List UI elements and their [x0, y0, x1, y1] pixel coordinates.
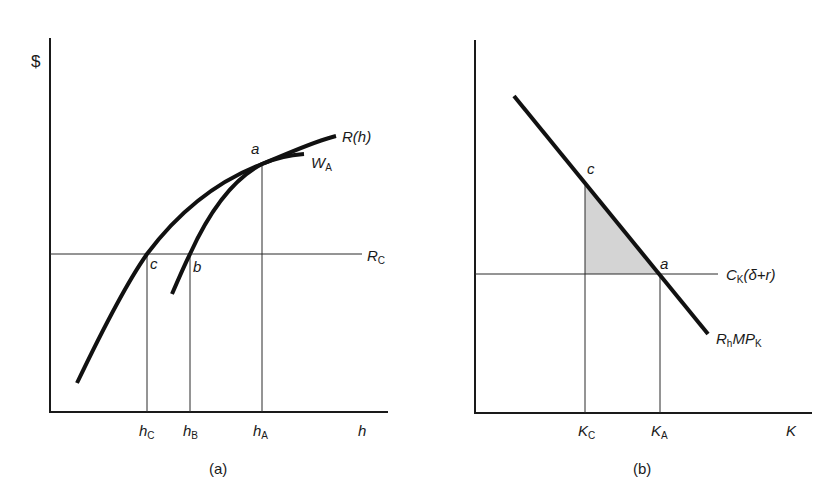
panel-b-caption: (b): [633, 460, 651, 477]
economics-diagram: $ a R(h) WA RC c b hC hB hA h (a): [0, 0, 828, 503]
point-b-label: b: [193, 258, 201, 275]
point-a-label-b: a: [660, 255, 668, 272]
hb-tick-label: hB: [183, 422, 198, 441]
ha-tick-label: hA: [253, 422, 268, 441]
panel-b: c a CK(δ+r) RhMPK KC KA K (b): [474, 40, 812, 477]
hc-tick-label: hC: [139, 422, 155, 441]
ka-tick-label: KA: [651, 422, 668, 441]
k-axis-label: K: [786, 422, 797, 439]
panel-a-caption: (a): [209, 460, 227, 477]
ck-label: CK(δ+r): [726, 266, 776, 285]
point-c-label-b: c: [587, 160, 595, 177]
panel-a: $ a R(h) WA RC c b hC hB hA h (a): [31, 38, 388, 477]
h-axis-label: h: [358, 422, 366, 439]
kc-tick-label: KC: [578, 422, 595, 441]
point-c-label: c: [150, 255, 158, 272]
rh-mpk-label: RhMPK: [716, 330, 762, 349]
wa-label: WA: [311, 154, 332, 173]
dollar-axis-label: $: [31, 52, 41, 71]
r-of-h-curve: [77, 136, 336, 383]
rc-label: RC: [367, 247, 385, 266]
rh-mpk-line: [514, 96, 708, 334]
point-a-label: a: [251, 140, 259, 157]
r-of-h-label: R(h): [342, 128, 371, 145]
